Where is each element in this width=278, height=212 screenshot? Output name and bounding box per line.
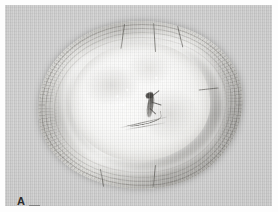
scale-bar-icon — [29, 205, 40, 206]
pale-speck — [126, 88, 128, 90]
specimen-blur-wrapper — [5, 5, 272, 206]
central-lesion — [140, 92, 179, 132]
photograph-plate: A — [5, 5, 272, 206]
pale-speck — [121, 103, 124, 106]
tree-trunk-cross-section — [38, 21, 243, 189]
pale-speck — [161, 80, 163, 82]
pale-speck — [116, 95, 118, 97]
figure-root: A — [0, 0, 278, 212]
panel-label: A — [17, 196, 25, 206]
